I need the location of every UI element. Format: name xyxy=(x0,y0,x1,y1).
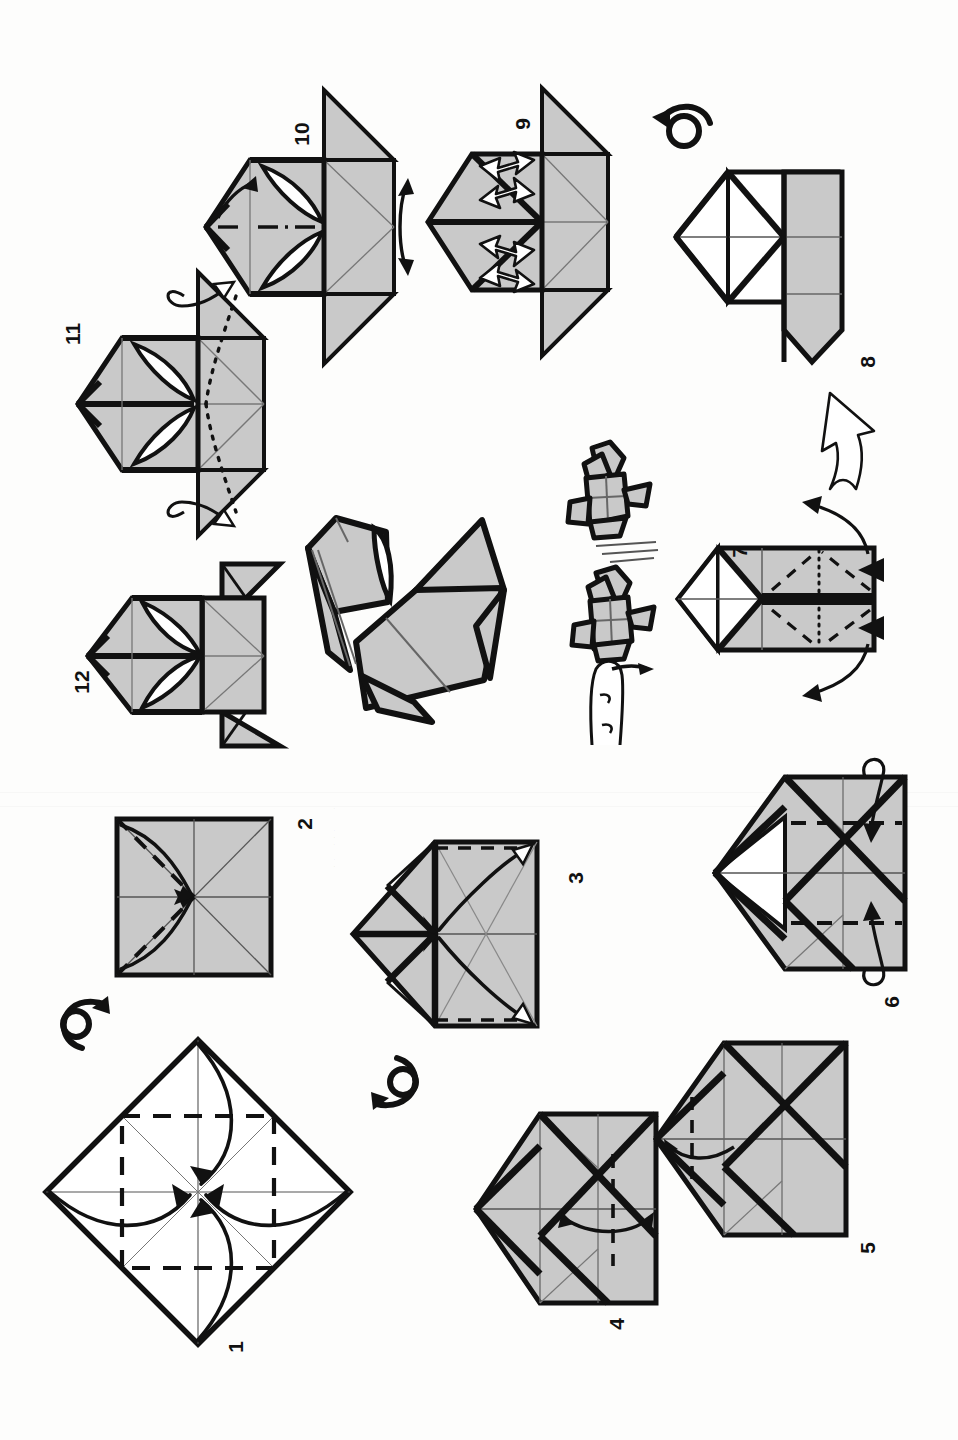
step-number-10: 10 xyxy=(290,122,314,145)
step-4-figure xyxy=(468,1106,664,1311)
step-number-11: 11 xyxy=(61,323,85,345)
step-number-9: 9 xyxy=(511,118,535,130)
step-number-8: 8 xyxy=(856,356,880,368)
step-number-1: 1 xyxy=(224,1341,248,1353)
step-number-7: 7 xyxy=(728,546,752,558)
step-2-figure xyxy=(111,813,277,981)
step-5-figure xyxy=(648,1035,854,1245)
step-8-figure xyxy=(666,162,906,382)
step-number-3: 3 xyxy=(564,872,588,884)
step-number-6: 6 xyxy=(880,996,904,1008)
step-number-12: 12 xyxy=(70,670,94,693)
step-number-2: 2 xyxy=(293,818,317,830)
turn-over-icon-2 xyxy=(367,1052,427,1122)
diagram-page: . . . . . . . . . xyxy=(0,0,958,1440)
step-11-figure xyxy=(58,262,288,552)
step-6-figure xyxy=(697,751,915,981)
step-3-figure xyxy=(345,834,545,1034)
step-12-figure xyxy=(62,540,292,770)
open-out-arrow-icon xyxy=(808,385,880,497)
step-number-4: 4 xyxy=(605,1318,629,1330)
step-7-figure xyxy=(672,540,884,658)
scan-ghost-text: . . . . . . . . . xyxy=(323,807,338,868)
turn-over-icon-3 xyxy=(648,95,720,161)
final-model-finger-press-view xyxy=(550,565,700,755)
turn-over-icon-1 xyxy=(52,988,114,1058)
step-1-figure xyxy=(38,1032,358,1362)
step-number-5: 5 xyxy=(856,1242,880,1254)
final-model-jumping-view xyxy=(540,440,670,570)
